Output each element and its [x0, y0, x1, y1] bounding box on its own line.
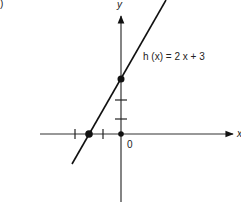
y-axis-label: y [116, 0, 123, 10]
function-line [72, 0, 166, 164]
y-intercept-point [118, 76, 125, 83]
x-axis-label: x [236, 128, 241, 139]
function-label: h (x) = 2 x + 3 [143, 51, 205, 62]
function-graph: y x 0 h (x) = 2 x + 3 [0, 0, 241, 202]
origin-label: 0 [127, 139, 133, 150]
origin-point [118, 131, 124, 137]
x-intercept-point [85, 130, 93, 138]
